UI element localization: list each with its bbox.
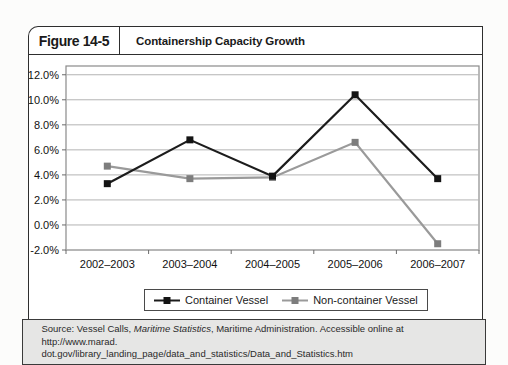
- data-point-marker: [104, 163, 111, 170]
- x-axis-label: 2003–2004: [162, 258, 217, 270]
- legend-item: Non-container Vessel: [282, 294, 418, 306]
- legend-marker-icon: [154, 296, 180, 305]
- data-point-marker: [434, 175, 441, 182]
- y-axis-label: 12.0%: [29, 69, 59, 81]
- x-axis-label: 2006–2007: [410, 258, 465, 270]
- y-axis-label: 2.0%: [34, 194, 59, 206]
- chart-legend: Container VesselNon-container Vessel: [144, 289, 428, 311]
- legend-label: Container Vessel: [185, 294, 268, 306]
- legend-label: Non-container Vessel: [313, 294, 418, 306]
- data-point-marker: [352, 139, 359, 146]
- x-axis-label: 2004–2005: [245, 258, 300, 270]
- y-axis-label: 8.0%: [34, 119, 59, 131]
- x-axis-label: 2002–2003: [80, 258, 135, 270]
- source-line-1: Source: Vessel Calls, Maritime Statistic…: [41, 323, 474, 348]
- legend-item: Container Vessel: [154, 294, 268, 306]
- data-point-marker: [186, 136, 193, 143]
- figure-container: Figure 14-5 Containership Capacity Growt…: [28, 26, 483, 364]
- data-point-marker: [269, 173, 276, 180]
- source-line-2: dot.gov/library_landing_page/data_and_st…: [41, 348, 474, 361]
- source-note: Source: Vessel Calls, Maritime Statistic…: [22, 319, 485, 365]
- figure-title: Containership Capacity Growth: [120, 27, 305, 54]
- figure-label: Figure 14-5: [29, 27, 120, 54]
- y-axis-label: 10.0%: [29, 94, 59, 106]
- page: Figure 14-5 Containership Capacity Growt…: [0, 0, 508, 365]
- chart-area: 12.0%10.0%8.0%6.0%4.0%2.0%0.0%-2.0%2002–…: [29, 55, 482, 319]
- line-chart: 12.0%10.0%8.0%6.0%4.0%2.0%0.0%-2.0%2002–…: [29, 55, 482, 319]
- x-axis-label: 2005–2006: [328, 258, 383, 270]
- figure-header: Figure 14-5 Containership Capacity Growt…: [29, 27, 482, 55]
- y-axis-label: 0.0%: [34, 219, 59, 231]
- data-point-marker: [186, 175, 193, 182]
- legend-marker-icon: [282, 296, 308, 305]
- data-point-marker: [104, 180, 111, 187]
- data-point-marker: [352, 91, 359, 98]
- y-axis-label: -2.0%: [30, 244, 59, 256]
- y-axis-label: 4.0%: [34, 169, 59, 181]
- y-axis-label: 6.0%: [34, 144, 59, 156]
- data-point-marker: [434, 240, 441, 247]
- source-italic-title: Maritime Statistics: [134, 323, 211, 334]
